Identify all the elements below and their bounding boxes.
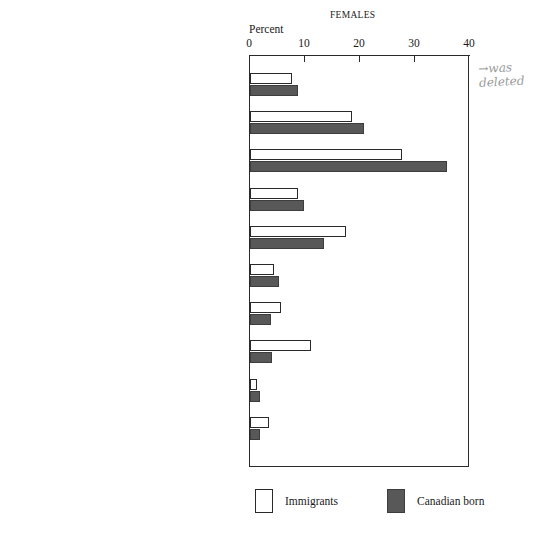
bar-6-series-1 <box>250 314 271 325</box>
legend-item-immigrants: Immigrants <box>255 489 338 513</box>
x-tick-label-30: 30 <box>408 37 420 49</box>
legend-item-canadian-born: Canadian born <box>387 489 484 513</box>
annotation-line-2: deleted <box>479 74 525 90</box>
bar-8-series-0 <box>250 379 257 390</box>
bar-1-series-0 <box>250 111 352 122</box>
bar-1-series-1 <box>250 123 364 134</box>
bar-0-series-1 <box>250 85 298 96</box>
legend-swatch-canadian-born <box>387 489 405 513</box>
bar-6-series-0 <box>250 302 281 313</box>
bar-5-series-0 <box>250 264 274 275</box>
bar-3-series-1 <box>250 200 304 211</box>
chart-title: FEMALES <box>330 10 375 20</box>
bar-7-series-0 <box>250 340 311 351</box>
legend-label-canadian-born: Canadian born <box>417 495 484 507</box>
bar-2-series-0 <box>250 149 402 160</box>
x-tick-label-10: 10 <box>298 37 310 49</box>
bar-9-series-0 <box>250 417 269 428</box>
x-tick-label-0: 0 <box>246 37 252 49</box>
bar-7-series-1 <box>250 352 272 363</box>
x-axis-unit-label: Percent <box>249 23 283 35</box>
chart-figure: FEMALES Percent 010203040 Managerial, Ad… <box>0 0 544 537</box>
bar-0-series-0 <box>250 73 292 84</box>
legend-swatch-immigrants <box>255 489 273 513</box>
annotation-line-1: was <box>488 60 512 75</box>
x-tick-label-40: 40 <box>463 37 475 49</box>
legend-label-immigrants: Immigrants <box>285 495 338 507</box>
chart-legend: Immigrants Canadian born <box>255 489 515 519</box>
handwritten-annotation: →was deleted <box>478 60 525 90</box>
bar-4-series-0 <box>250 226 346 237</box>
bar-9-series-1 <box>250 429 260 440</box>
bar-5-series-1 <box>250 276 279 287</box>
bar-8-series-1 <box>250 391 260 402</box>
x-tick-label-20: 20 <box>353 37 365 49</box>
bar-4-series-1 <box>250 238 324 249</box>
bar-3-series-0 <box>250 188 298 199</box>
bar-2-series-1 <box>250 161 447 172</box>
